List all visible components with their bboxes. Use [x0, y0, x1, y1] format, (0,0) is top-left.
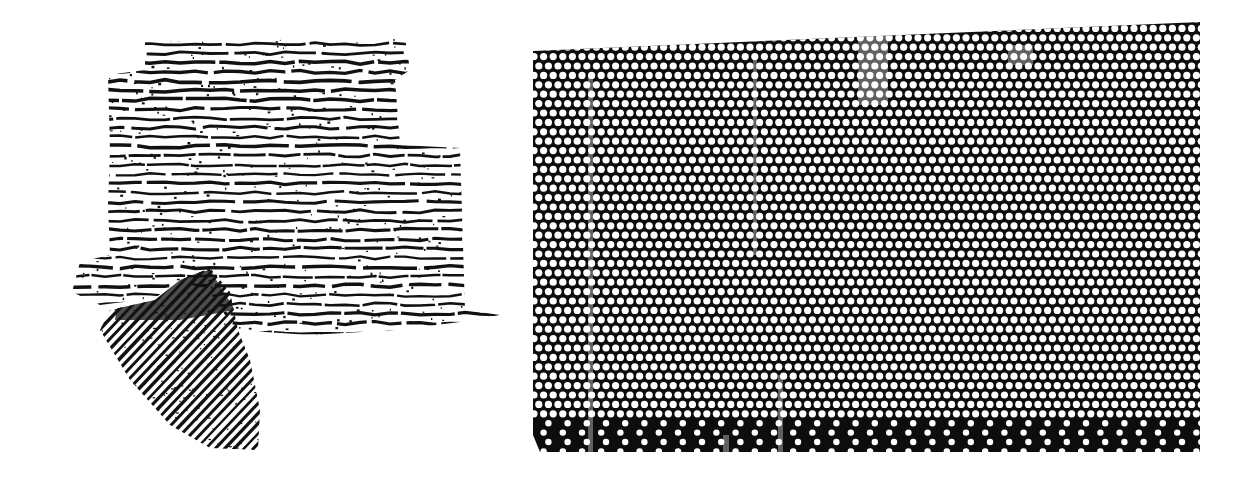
- perforated-dot-panel-image: [528, 15, 1208, 460]
- ribbed-fabric-graphic: [60, 30, 510, 460]
- hex-dot-grid-graphic: [528, 15, 1208, 460]
- ribbed-fabric-fragment-image: [60, 30, 510, 460]
